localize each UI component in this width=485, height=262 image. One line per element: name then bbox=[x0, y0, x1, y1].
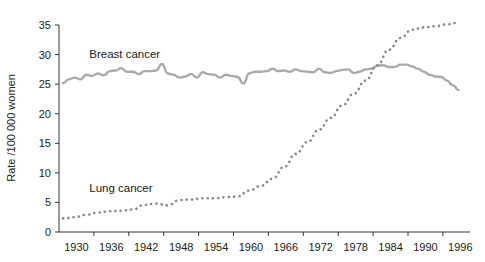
y-tick-label: 35 bbox=[39, 19, 51, 31]
y-tick-label: 25 bbox=[39, 78, 51, 90]
x-tick-label: 1930 bbox=[64, 241, 88, 253]
x-tick-label: 1960 bbox=[239, 241, 263, 253]
x-tick-label: 1984 bbox=[378, 241, 402, 253]
x-tick-label: 1972 bbox=[309, 241, 333, 253]
y-tick-label: 10 bbox=[39, 167, 51, 179]
y-tick-label: 20 bbox=[39, 108, 51, 120]
x-tick-label: 1942 bbox=[134, 241, 158, 253]
y-tick-label: 15 bbox=[39, 137, 51, 149]
line-chart: 05101520253035 1930193619421948195419601… bbox=[0, 0, 485, 262]
x-tick-label: 1978 bbox=[343, 241, 367, 253]
series-layer: Breast cancerLung cancer bbox=[63, 23, 459, 219]
y-tick-label: 30 bbox=[39, 49, 51, 61]
y-tick-label: 5 bbox=[45, 196, 51, 208]
breast-cancer-line bbox=[63, 64, 459, 90]
x-tick-label: 1966 bbox=[274, 241, 298, 253]
x-tick-label: 1954 bbox=[204, 241, 228, 253]
lung-cancer-label: Lung cancer bbox=[89, 182, 152, 194]
y-axis-title: Rate /100 000 women bbox=[5, 74, 17, 182]
breast-cancer-label: Breast cancer bbox=[89, 48, 160, 60]
x-tick-label: 1990 bbox=[413, 241, 437, 253]
x-tick-label: 1948 bbox=[169, 241, 193, 253]
y-tick-label: 0 bbox=[45, 226, 51, 238]
x-tick-label: 1936 bbox=[99, 241, 123, 253]
y-axis: 05101520253035 bbox=[39, 19, 59, 238]
x-axis: 1930193619421948195419601966197219781984… bbox=[59, 232, 473, 253]
x-tick-label: 1996 bbox=[448, 241, 472, 253]
